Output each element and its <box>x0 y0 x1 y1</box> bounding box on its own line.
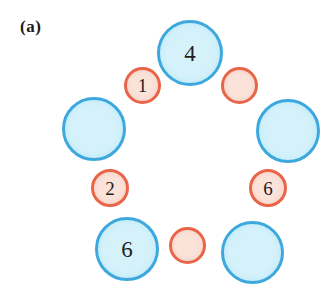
panel-label: (a) <box>20 17 41 37</box>
circle-big-bottom-left: 6 <box>95 217 159 281</box>
circle-label-big-bottom-left: 6 <box>121 238 133 261</box>
circle-small-bottom <box>169 227 206 264</box>
circle-label-small-lower-left: 2 <box>105 179 115 198</box>
circle-label-small-upper-left: 1 <box>138 76 148 95</box>
circle-big-top: 4 <box>157 20 223 86</box>
circle-small-lower-right: 6 <box>249 169 287 207</box>
circle-big-left <box>62 97 126 161</box>
circle-small-upper-right <box>221 67 258 104</box>
circle-big-bottom-right <box>221 221 284 284</box>
circle-label-big-top: 4 <box>184 42 196 65</box>
circle-label-small-lower-right: 6 <box>263 179 273 198</box>
circle-big-right <box>256 99 320 163</box>
circle-small-upper-left: 1 <box>124 67 161 104</box>
circle-small-lower-left: 2 <box>91 169 129 207</box>
figure-panel-a: (a) 41266 <box>0 0 331 301</box>
